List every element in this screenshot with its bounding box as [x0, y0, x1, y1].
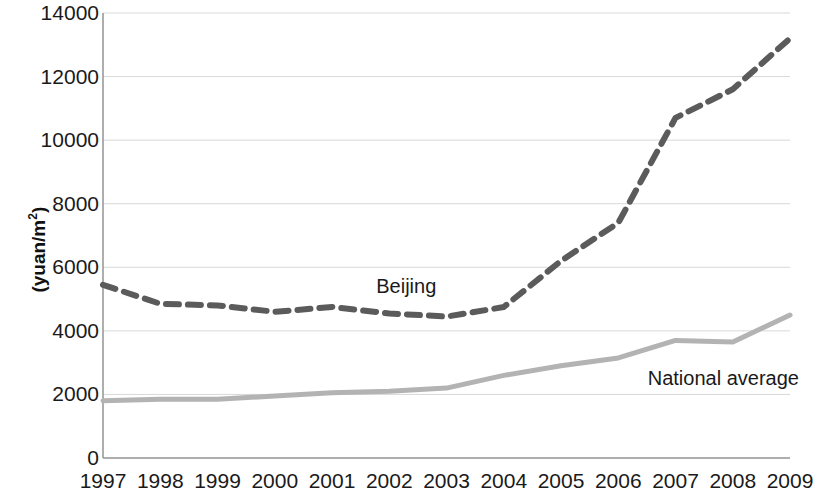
- x-tick-label: 2006: [588, 470, 648, 491]
- x-tick-label: 2002: [359, 470, 419, 491]
- x-tick-label: 1997: [73, 470, 133, 491]
- x-tick-label: 2001: [302, 470, 362, 491]
- x-tick-label: 2004: [474, 470, 534, 491]
- x-tick-label: 2009: [760, 470, 818, 491]
- x-tick-label: 1999: [188, 470, 248, 491]
- x-tick-label: 1998: [130, 470, 190, 491]
- x-tick-label: 2003: [417, 470, 477, 491]
- x-tick-label: 2000: [245, 470, 305, 491]
- x-tick-label: 2008: [703, 470, 763, 491]
- x-tick-label: 2005: [531, 470, 591, 491]
- x-tick-label: 2007: [646, 470, 706, 491]
